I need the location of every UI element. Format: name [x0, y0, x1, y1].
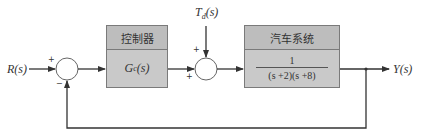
controller-transfer-function: Gc(s): [107, 49, 167, 87]
plant-transfer-function: 1 (s +2)(s +8): [245, 49, 339, 87]
controller-tf-arg: (s): [137, 61, 150, 76]
disturbance-label: Td(s): [195, 6, 218, 21]
block-diagram: R(s) Y(s) Td(s) + − + + 控制器 Gc(s) 汽车系统 1…: [0, 0, 421, 135]
plant-denominator: (s +2)(s +8): [268, 68, 315, 81]
disturbance-arg: (s): [206, 5, 219, 19]
summer1-plus-sign: +: [48, 56, 55, 64]
summer1-minus-sign: −: [56, 80, 63, 88]
summer2-plus-sign-left: +: [186, 73, 193, 81]
controller-title: 控制器: [107, 26, 167, 50]
controller-block: 控制器 Gc(s): [106, 25, 168, 88]
controller-tf-symbol: G: [125, 61, 134, 76]
summer2-plus-sign-top: +: [193, 46, 200, 54]
plant-numerator: 1: [286, 55, 299, 67]
plant-title: 汽车系统: [245, 26, 339, 50]
plant-fraction: 1 (s +2)(s +8): [256, 55, 328, 81]
plant-block: 汽车系统 1 (s +2)(s +8): [244, 25, 340, 88]
input-label: R(s): [7, 63, 27, 75]
output-label: Y(s): [393, 63, 412, 75]
disturbance-symbol: T: [195, 5, 202, 19]
